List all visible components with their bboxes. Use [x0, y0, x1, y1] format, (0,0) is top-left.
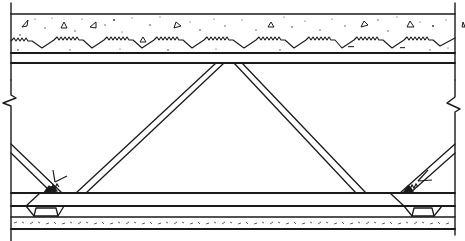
bottom-chord: [11, 193, 455, 206]
bearing-seat-left: [26, 193, 64, 216]
concrete-aggregate: [22, 20, 465, 42]
bottom-strip-texture: [14, 222, 449, 224]
weld-symbol-right: [403, 170, 432, 193]
metal-deck-corrugation: [11, 37, 455, 48]
web-diagonals: [11, 63, 455, 193]
concrete-slab: [11, 14, 455, 53]
concrete-specks: [17, 16, 448, 50]
joist-section-drawing: [0, 0, 465, 241]
bearing-seat-right: [390, 193, 442, 216]
bottom-speckled-strip: [11, 217, 455, 229]
break-line-right: [447, 80, 460, 235]
weld-symbol-left: [44, 170, 67, 193]
